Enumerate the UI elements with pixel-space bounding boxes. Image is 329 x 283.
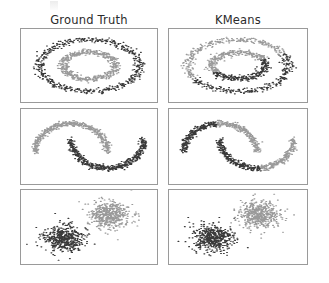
panel-moons-kmeans [168, 108, 308, 185]
panel-circles-kmeans [168, 28, 308, 103]
column-title-ground-truth: Ground Truth [20, 13, 158, 27]
panel-circles-ground-truth [20, 28, 158, 103]
panel-blobs-kmeans [168, 189, 308, 265]
scan-artifact [50, 1, 58, 10]
cluster-comparison-figure: Ground Truth KMeans [0, 0, 329, 283]
panel-moons-ground-truth [20, 108, 158, 185]
column-title-kmeans: KMeans [168, 13, 308, 27]
panel-blobs-ground-truth [20, 189, 158, 265]
